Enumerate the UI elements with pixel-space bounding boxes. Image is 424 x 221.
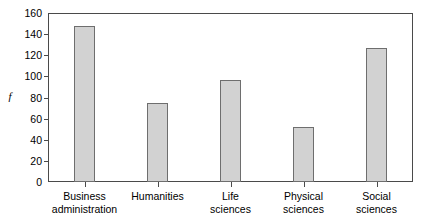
x-tick-label-line2: sciences — [267, 203, 340, 216]
y-tick-mark — [44, 55, 49, 56]
x-tick-mark — [231, 182, 232, 187]
x-tick-label: Humanities — [121, 190, 194, 203]
x-tick-mark — [85, 182, 86, 187]
bar[interactable] — [147, 103, 168, 182]
x-tick-label-line2: sciences — [194, 203, 267, 216]
y-tick-mark — [44, 76, 49, 77]
bar[interactable] — [220, 80, 241, 182]
y-tick-label: 60 — [0, 114, 42, 124]
x-tick-label-line2: sciences — [340, 203, 413, 216]
y-tick-label: 100 — [0, 71, 42, 81]
y-tick-label: 20 — [0, 156, 42, 166]
y-tick-label: 40 — [0, 135, 42, 145]
bar[interactable] — [366, 48, 387, 182]
x-tick-mark — [377, 182, 378, 187]
x-tick-label: Socialsciences — [340, 190, 413, 216]
y-tick-label: 0 — [0, 177, 42, 187]
x-tick-label: Businessadministration — [48, 190, 121, 216]
y-tick-label: 120 — [0, 50, 42, 60]
y-tick-mark — [44, 119, 49, 120]
y-tick-mark — [44, 140, 49, 141]
x-tick-mark — [304, 182, 305, 187]
y-tick-label: 140 — [0, 29, 42, 39]
y-tick-mark — [44, 98, 49, 99]
y-tick-mark — [44, 34, 49, 35]
x-tick-label-line2: administration — [48, 203, 121, 216]
x-tick-label-line1: Humanities — [131, 190, 184, 202]
x-tick-label: Physicalsciences — [267, 190, 340, 216]
x-tick-label-line1: Life — [222, 190, 239, 202]
y-tick-label: 80 — [0, 93, 42, 103]
x-tick-label-line1: Business — [63, 190, 106, 202]
x-tick-label-line1: Physical — [284, 190, 323, 202]
x-tick-label-line1: Social — [362, 190, 391, 202]
y-tick-label: 160 — [0, 8, 42, 18]
y-tick-mark — [44, 161, 49, 162]
bar-chart: f 020406080100120140160 Businessadminist… — [0, 0, 424, 221]
bar[interactable] — [74, 26, 95, 182]
x-tick-mark — [158, 182, 159, 187]
bar[interactable] — [293, 127, 314, 182]
x-tick-label: Lifesciences — [194, 190, 267, 216]
